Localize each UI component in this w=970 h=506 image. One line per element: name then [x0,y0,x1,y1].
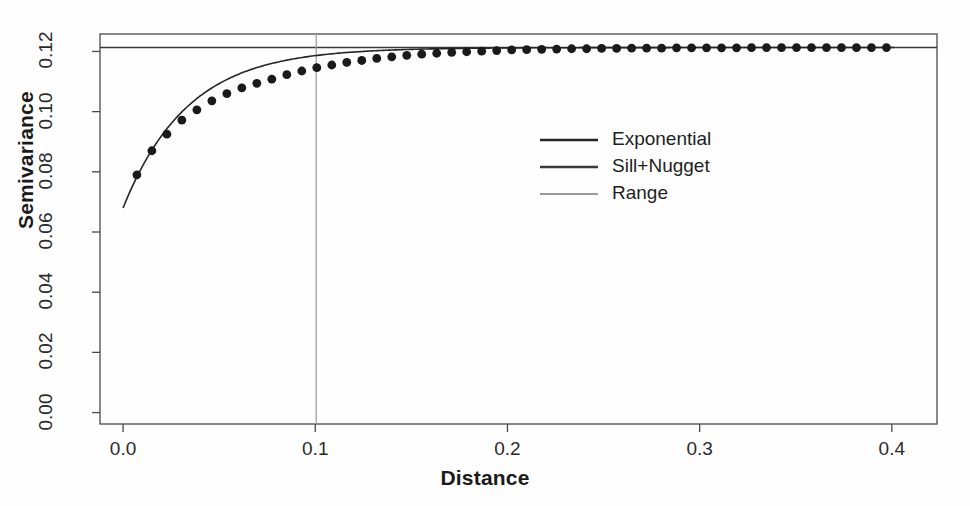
data-point [672,43,681,52]
data-point [432,49,441,58]
data-point [147,146,156,155]
data-point [522,45,531,54]
data-point [207,96,216,105]
empirical-point-group [133,43,891,179]
x-tick-label: 0.3 [660,438,740,460]
data-point [792,43,801,52]
data-point [372,54,381,63]
x-tick-label: 0.0 [83,438,163,460]
x-tick-label: 0.1 [275,438,355,460]
data-point [822,43,831,52]
data-point [837,43,846,52]
data-point [702,43,711,52]
data-point [717,43,726,52]
data-point [732,43,741,52]
data-point [687,43,696,52]
data-point [282,70,291,79]
data-point [133,170,142,179]
data-point [492,46,501,55]
data-point [237,83,246,92]
data-point [342,58,351,67]
x-tick-label: 0.2 [467,438,547,460]
data-point [162,130,171,139]
data-point [507,46,516,55]
data-point [552,45,561,54]
x-axis-title: Distance [0,466,970,490]
data-point [747,43,756,52]
data-point [192,105,201,114]
data-point [597,44,606,53]
y-tick-label: 0.12 [35,10,57,90]
data-point [222,89,231,98]
data-point [402,51,411,60]
data-point [267,75,276,84]
data-point [777,43,786,52]
legend-label-range: Range [612,182,668,204]
x-tick-label: 0.4 [852,438,932,460]
data-point [567,44,576,53]
data-point [462,47,471,56]
data-point [447,48,456,57]
legend-label-sill-nugget: Sill+Nugget [612,155,710,177]
data-point [882,43,891,52]
legend-label-exponential: Exponential [612,128,711,150]
data-point [312,63,321,72]
data-point [582,44,591,53]
data-point [867,43,876,52]
data-point [612,44,621,53]
semivariogram-figure: Distance Semivariance 0.00.10.20.30.4 0.… [0,0,970,506]
data-point [807,43,816,52]
exponential-model-curve [123,48,894,208]
plot-canvas [0,0,970,506]
data-point [417,50,426,59]
data-point [477,47,486,56]
data-point [642,44,651,53]
data-point [657,44,666,53]
data-point [177,116,186,125]
data-point [852,43,861,52]
data-point [627,44,636,53]
data-point [357,56,366,65]
data-point [327,61,336,70]
data-point [297,67,306,76]
data-point [762,43,771,52]
data-point [537,45,546,54]
data-point [387,52,396,61]
data-point [252,79,261,88]
